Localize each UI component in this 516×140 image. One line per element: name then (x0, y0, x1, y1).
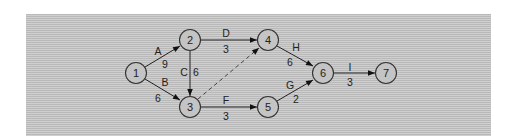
duration-label-h: 6 (287, 56, 293, 68)
activity-label-h: H (292, 41, 300, 53)
duration-label-d: 3 (223, 43, 229, 55)
svg-text:3: 3 (187, 101, 193, 113)
edge-3-4-dummy (198, 48, 259, 99)
activity-label-c: C (180, 66, 188, 78)
svg-text:6: 6 (320, 67, 326, 79)
node-4: 4 (258, 30, 279, 51)
activity-label-g: G (286, 79, 294, 91)
svg-text:7: 7 (383, 67, 389, 79)
duration-label-a: 9 (162, 58, 168, 70)
node-5: 5 (258, 97, 279, 118)
svg-text:2: 2 (187, 34, 193, 46)
activity-label-i: I (349, 61, 352, 73)
activity-label-a: A (154, 45, 161, 57)
network-diagram: A 9 B 6 C 6 D 3 F 3 H 6 G 2 I 3 1 2 3 4 … (0, 0, 516, 140)
duration-label-f: 3 (223, 110, 229, 122)
duration-label-g: 2 (293, 93, 299, 105)
duration-label-i: 3 (347, 76, 353, 88)
node-3: 3 (180, 97, 201, 118)
svg-text:5: 5 (265, 101, 271, 113)
activity-label-b: B (161, 76, 168, 88)
svg-text:1: 1 (133, 67, 139, 79)
duration-label-b: 6 (155, 92, 161, 104)
node-1: 1 (126, 63, 147, 84)
node-6: 6 (313, 63, 334, 84)
node-2: 2 (180, 30, 201, 51)
node-7: 7 (376, 63, 397, 84)
duration-label-c: 6 (193, 66, 199, 78)
svg-text:4: 4 (265, 34, 271, 46)
activity-label-f: F (223, 94, 229, 106)
activity-label-d: D (222, 27, 230, 39)
